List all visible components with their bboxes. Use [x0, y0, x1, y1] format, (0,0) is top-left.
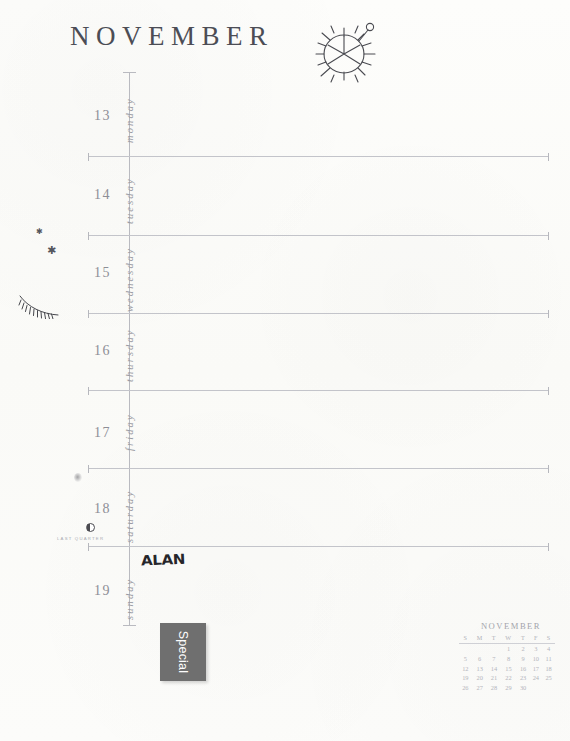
mini-calendar-day[interactable]: 8: [500, 654, 516, 664]
planner-page: NOVEMBER 13 monday 14 tuesday: [0, 0, 570, 741]
special-sticker-label: Special: [176, 631, 190, 673]
day-entry-area-14[interactable]: [132, 158, 547, 233]
mini-calendar-week-row: 19 20 21 22 23 24 25: [459, 673, 555, 683]
mini-calendar-day[interactable]: 25: [542, 673, 555, 683]
mini-calendar-day[interactable]: 26: [459, 683, 472, 693]
ink-smudge: [74, 473, 82, 482]
mini-calendar-week-row: 1 2 3 4: [459, 644, 555, 654]
mini-calendar-day[interactable]: 5: [459, 654, 472, 664]
day-number-19: 19: [94, 583, 111, 599]
day-number-18: 18: [94, 501, 111, 517]
day-separator-rule: [88, 546, 549, 547]
mini-calendar-title: NOVEMBER: [459, 621, 555, 631]
mini-calendar-day[interactable]: [459, 644, 472, 654]
mini-calendar-day[interactable]: 9: [517, 654, 530, 664]
mini-calendar-day[interactable]: 30: [517, 683, 530, 693]
vertical-rule-cap-bottom: [123, 625, 136, 626]
day-number-14: 14: [94, 187, 111, 203]
day-entry-area-13[interactable]: [132, 76, 547, 154]
mini-calendar-day[interactable]: 2: [517, 644, 530, 654]
mini-calendar-day[interactable]: [472, 644, 488, 654]
weekday-header: F: [529, 633, 542, 644]
day-entry-area-18[interactable]: [132, 470, 547, 544]
mini-calendar: NOVEMBER S M T W T F S 1: [459, 621, 555, 692]
mini-calendar-day[interactable]: 21: [488, 673, 501, 683]
weekday-header: M: [472, 633, 488, 644]
mini-calendar-day[interactable]: 7: [488, 654, 501, 664]
mini-calendar-week-row: 26 27 28 29 30: [459, 683, 555, 693]
day-number-15: 15: [94, 265, 111, 281]
mini-calendar-day[interactable]: 11: [542, 654, 555, 664]
mini-calendar-week-row: 12 13 14 15 16 17 18: [459, 663, 555, 673]
mini-calendar-day[interactable]: 1: [500, 644, 516, 654]
day-entry-area-15[interactable]: [132, 237, 547, 311]
day-separator-rule: [88, 468, 549, 469]
mini-calendar-day[interactable]: 23: [517, 673, 530, 683]
mini-calendar-day[interactable]: 3: [529, 644, 542, 654]
mini-calendar-day[interactable]: 4: [542, 644, 555, 654]
mini-calendar-day[interactable]: 29: [500, 683, 516, 693]
mini-calendar-day[interactable]: 19: [459, 673, 472, 683]
day-entry-area-16[interactable]: [132, 315, 547, 388]
mini-calendar-day[interactable]: 13: [472, 663, 488, 673]
eyelash-icon: [18, 293, 60, 319]
weekday-header: T: [517, 633, 530, 644]
mini-calendar-day[interactable]: 15: [500, 663, 516, 673]
mini-calendar-day[interactable]: [542, 683, 555, 693]
day-entry-area-17[interactable]: [132, 392, 547, 466]
moon-phase-label: LAST QUARTER: [57, 536, 104, 541]
weekday-header: T: [488, 633, 501, 644]
special-sticker[interactable]: Special: [160, 623, 206, 681]
mini-calendar-day[interactable]: 10: [529, 654, 542, 664]
vertical-rule-cap-top: [123, 72, 136, 73]
mini-calendar-week-row: 5 6 7 8 9 10 11: [459, 654, 555, 664]
mini-calendar-day[interactable]: 28: [488, 683, 501, 693]
mini-calendar-day[interactable]: 6: [472, 654, 488, 664]
day-separator-rule: [88, 235, 549, 236]
day-number-13: 13: [94, 108, 111, 124]
mini-calendar-day[interactable]: 22: [500, 673, 516, 683]
mini-calendar-day[interactable]: [488, 644, 501, 654]
mini-calendar-day[interactable]: 16: [517, 663, 530, 673]
weekday-header: W: [500, 633, 516, 644]
star-icon: ✱: [47, 245, 56, 256]
mini-calendar-day[interactable]: 12: [459, 663, 472, 673]
mini-calendar-table: S M T W T F S 1 2 3 4: [459, 633, 555, 692]
weekday-header: S: [542, 633, 555, 644]
mini-calendar-day[interactable]: 20: [472, 673, 488, 683]
mini-calendar-day[interactable]: 27: [472, 683, 488, 693]
day-separator-rule: [88, 156, 549, 157]
day-number-17: 17: [94, 425, 111, 441]
moon-last-quarter-icon: [86, 523, 95, 532]
day-number-16: 16: [94, 343, 111, 359]
mini-calendar-day[interactable]: 18: [542, 663, 555, 673]
mini-calendar-header-row: S M T W T F S: [459, 633, 555, 644]
mini-calendar-day[interactable]: 17: [529, 663, 542, 673]
mini-calendar-day[interactable]: [529, 683, 542, 693]
day-separator-rule: [88, 390, 549, 391]
day-entry-area-19[interactable]: [132, 548, 547, 624]
star-icon: ✱: [36, 228, 43, 236]
mini-calendar-day[interactable]: 24: [529, 673, 542, 683]
mini-calendar-day[interactable]: 14: [488, 663, 501, 673]
weekday-header: S: [459, 633, 472, 644]
day-separator-rule: [88, 313, 549, 314]
page-title: NOVEMBER: [70, 21, 274, 52]
